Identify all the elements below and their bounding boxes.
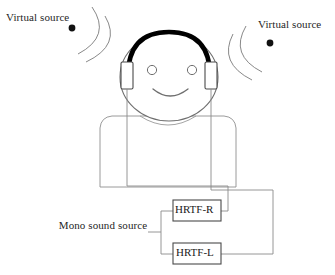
- left-virtual-source-dot: [69, 25, 76, 32]
- right-eye-icon: [187, 65, 196, 74]
- left-earcup-icon: [121, 62, 133, 89]
- diagram-canvas: [0, 0, 335, 275]
- hrtf-l-block-label: HRTF-L: [176, 246, 214, 258]
- left-wavefront-arc-1: [78, 7, 99, 54]
- virtual-source-left-label: Virtual source: [6, 11, 69, 24]
- right-virtual-source-dot: [267, 40, 274, 47]
- left-wavefront-arc-2: [86, 16, 110, 62]
- binaural-headphone-diagram: Virtual source Virtual source Mono sound…: [0, 0, 335, 275]
- hrtf-r-block-label: HRTF-R: [175, 203, 213, 215]
- torso-outline: [100, 116, 236, 187]
- right-wavefront-arc-1: [240, 26, 262, 72]
- left-eye-icon: [147, 65, 156, 74]
- virtual-source-right-label: Virtual source: [258, 18, 321, 31]
- mono-sound-source-label: Mono sound source: [57, 219, 149, 232]
- right-earcup-icon: [205, 62, 217, 89]
